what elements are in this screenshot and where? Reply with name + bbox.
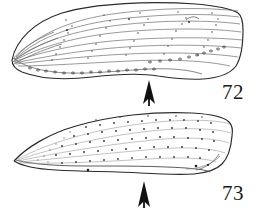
elytron-73-punctation-field: [55, 115, 215, 164]
figure-number-73: 73: [222, 183, 244, 204]
elytron-72-ventral-edge: [12, 60, 203, 79]
pointer-arrow-73: [138, 181, 150, 208]
elytron-72-oblique-punctures: [149, 46, 226, 63]
elytron-72-apex-line-1: [12, 32, 54, 60]
elytron-73-stria-5: [20, 158, 216, 163]
elytron-73-ventral-specks: [87, 164, 209, 171]
figure-number-72: 72: [222, 82, 244, 103]
elytron-72-apex-line-3: [14, 44, 62, 64]
elytron-72-stria-2: [15, 15, 239, 59]
elytron-72-stria-1: [16, 9, 238, 57]
elytron-72-stria-7: [16, 53, 238, 64]
elytron-73-basal-edge: [194, 136, 232, 174]
elytron-72-basal-edge: [203, 30, 243, 79]
elytron-73-faint-punctures: [37, 131, 71, 163]
elytron-72-dorsal-edge: [12, 3, 243, 60]
elytron-73-stria-2: [18, 129, 231, 160]
elytron-73-stria-4: [19, 148, 225, 162]
plate-drawing: [0, 0, 264, 208]
elytron-72-stria-8: [18, 60, 230, 66]
elytron-72-stria-6: [15, 45, 241, 63]
elytron-72-upper-detail: [186, 17, 199, 20]
illustration-plate: 72 73: [0, 0, 264, 208]
elytron-73-stria-3: [18, 138, 229, 161]
pointer-arrow-72: [143, 80, 155, 106]
elytron-73-basal-inner-curve: [196, 154, 219, 170]
elytron-72-apex-line-2: [13, 38, 58, 62]
elytron-73-epipleural-line: [16, 160, 210, 172]
figure-72-drawing: [12, 3, 243, 106]
elytron-72-stria-punctures: [51, 11, 219, 61]
elytron-72-stria-4: [14, 29, 241, 61]
elytron-72-stria-3: [14, 21, 240, 60]
elytron-72-dark-specks: [66, 18, 190, 31]
elytron-73-dorsal-edge: [14, 113, 232, 161]
figure-73-drawing: [14, 113, 232, 208]
elytron-73-stria-1: [18, 120, 230, 159]
elytron-72-epipleural-line: [14, 58, 202, 74]
elytron-73-ventral-edge: [14, 161, 194, 174]
elytron-72-marginal-punctures: [29, 67, 156, 74]
elytron-72-stria-5: [14, 38, 242, 62]
elytron-73-basal-inner-curve-2: [186, 156, 220, 169]
